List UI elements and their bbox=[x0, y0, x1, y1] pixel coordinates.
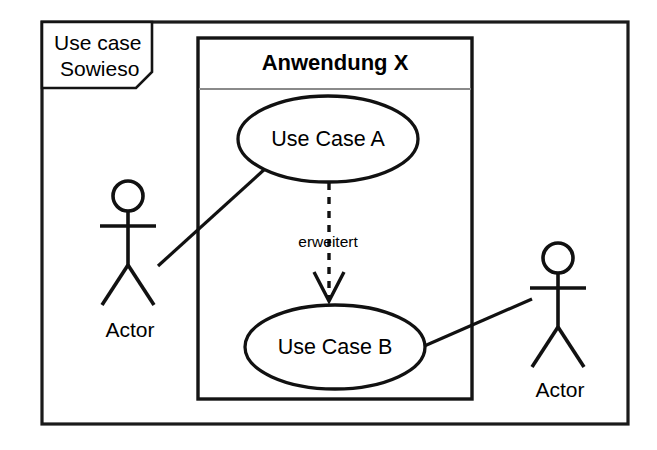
system-title: Anwendung X bbox=[262, 50, 409, 75]
actor-right-head-icon bbox=[543, 243, 573, 273]
extend-relationship-label: erweitert bbox=[298, 233, 358, 250]
use-case-a-label: Use Case A bbox=[271, 127, 385, 151]
frame-label-line-1: Use case bbox=[54, 31, 142, 54]
actor-right-leg-right bbox=[558, 327, 584, 367]
actor-left-head-icon bbox=[113, 181, 143, 211]
actor-left[interactable] bbox=[100, 181, 156, 305]
frame-label-line-2: Sowieso bbox=[60, 57, 139, 80]
actor-left-leg-right bbox=[128, 265, 154, 305]
use-case-diagram: Use case Sowieso Anwendung X Use Case A … bbox=[0, 0, 657, 450]
use-case-b-label: Use Case B bbox=[278, 335, 393, 359]
actor-left-leg-left bbox=[102, 265, 128, 305]
actor-right-leg-left bbox=[532, 327, 558, 367]
actor-right[interactable] bbox=[530, 243, 586, 367]
actor-right-label: Actor bbox=[535, 378, 584, 401]
actor-left-label: Actor bbox=[105, 318, 154, 341]
